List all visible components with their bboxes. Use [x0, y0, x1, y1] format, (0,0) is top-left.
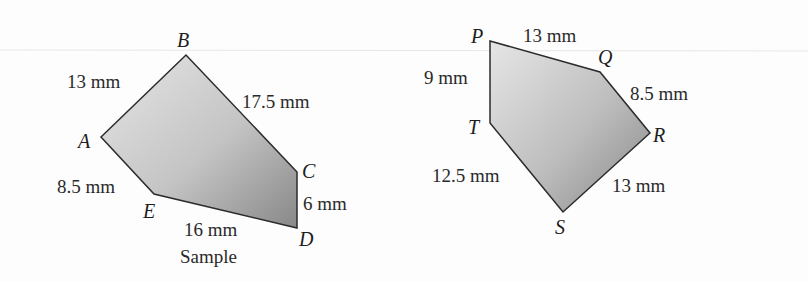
polygons-svg: B A C D E 13 mm 17.5 mm 6 mm 16 mm 8.5 m…: [0, 0, 808, 282]
side-QR-length: 8.5 mm: [630, 83, 688, 104]
vertex-B: B: [177, 29, 189, 51]
side-CD-length: 6 mm: [303, 193, 347, 214]
side-ST-length: 12.5 mm: [432, 165, 500, 186]
side-PQ-length: 13 mm: [523, 25, 577, 46]
side-DE-length: 16 mm: [184, 219, 238, 240]
vertex-D: D: [298, 228, 314, 250]
vertex-A: A: [76, 130, 91, 152]
diagram-canvas: B A C D E 13 mm 17.5 mm 6 mm 16 mm 8.5 m…: [0, 0, 808, 282]
vertex-C: C: [302, 160, 316, 182]
figure-caption: Sample: [180, 246, 237, 267]
side-BC-length: 17.5 mm: [242, 91, 310, 112]
side-TP-length: 9 mm: [424, 67, 468, 88]
side-EA-length: 8.5 mm: [57, 176, 115, 197]
vertex-Q: Q: [598, 46, 613, 68]
page-rule: [0, 50, 808, 51]
pqrst-polygon: P Q R S T 13 mm 8.5 mm 13 mm 12.5 mm 9 m…: [424, 25, 688, 238]
vertex-R: R: [652, 124, 665, 146]
vertex-E: E: [142, 200, 155, 222]
vertex-S: S: [555, 216, 565, 238]
side-AB-length: 13 mm: [67, 71, 121, 92]
side-RS-length: 13 mm: [612, 175, 666, 196]
vertex-P: P: [470, 25, 483, 47]
sample-polygon: B A C D E 13 mm 17.5 mm 6 mm 16 mm 8.5 m…: [57, 29, 347, 267]
vertex-T: T: [468, 116, 481, 138]
